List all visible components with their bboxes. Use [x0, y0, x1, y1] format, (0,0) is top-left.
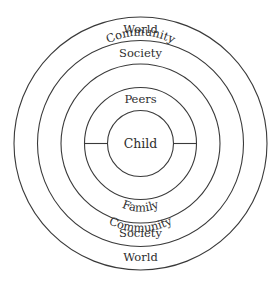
- ecological-systems-diagram: World Society Community Peers Child Fami…: [0, 0, 280, 285]
- label-child: Child: [124, 136, 158, 151]
- label-community-top-path: Community: [104, 24, 178, 46]
- label-peers: Peers: [124, 92, 156, 106]
- label-society-top: Society: [119, 46, 162, 60]
- label-society-bottom: Society: [119, 226, 162, 240]
- label-world-bottom: World: [123, 250, 158, 264]
- label-community-top: Community: [104, 24, 178, 46]
